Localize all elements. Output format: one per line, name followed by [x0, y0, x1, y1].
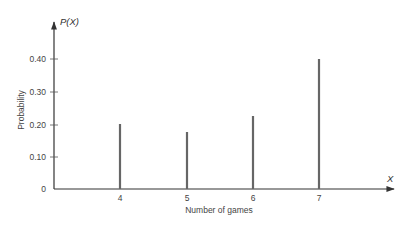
- y-axis-title: Probability: [16, 89, 26, 129]
- x-axis-title: Number of games: [185, 205, 253, 215]
- x-tick-label: 6: [251, 193, 256, 203]
- x-tick-label: 5: [185, 193, 190, 203]
- x-ticks: 4 5 6 7: [118, 193, 322, 203]
- x-tick-label: 7: [317, 193, 322, 203]
- y-tick-label: 0.30: [29, 87, 46, 97]
- bars: [120, 59, 319, 189]
- y-tick-label: 0: [41, 184, 46, 194]
- y-tick-label: 0.20: [29, 120, 46, 130]
- probability-distribution-chart: P(X) X 0 0.10 0.20 0.30 0.40 4 5 6 7 Num…: [0, 0, 405, 227]
- y-tick-label: 0.40: [29, 54, 46, 64]
- x-tick-label: 4: [118, 193, 123, 203]
- y-tick-label: 0.10: [29, 152, 46, 162]
- x-variable-label: X: [386, 173, 394, 184]
- y-variable-label: P(X): [60, 16, 79, 27]
